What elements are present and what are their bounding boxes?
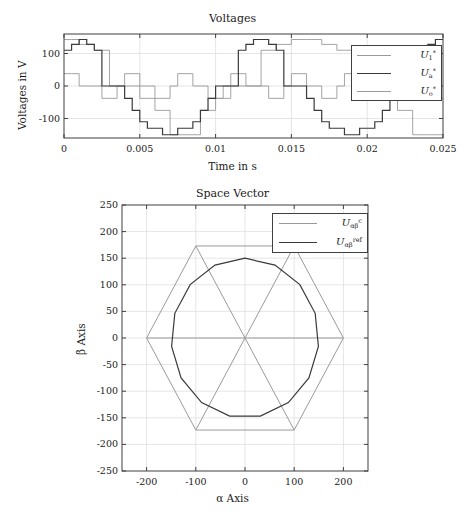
legend-label-ua-ref: Ua* bbox=[391, 67, 441, 80]
legend-swatch-u-alphabeta-ref bbox=[279, 242, 317, 243]
figure-root: Voltages Voltages in V Time in s 00.0050… bbox=[0, 0, 465, 520]
voltages-ytick: -100 bbox=[18, 113, 60, 124]
voltages-xtick: 0.015 bbox=[266, 143, 316, 154]
space-vector-xtick: 100 bbox=[269, 476, 319, 487]
space-vector-ytick: -150 bbox=[78, 412, 118, 423]
space-vector-xtick: 0 bbox=[220, 476, 270, 487]
legend-item-ua-ref[interactable]: Ua* bbox=[352, 64, 441, 82]
legend-item-uo-ref[interactable]: Uo* bbox=[352, 82, 441, 100]
voltages-ytick: 100 bbox=[18, 48, 60, 59]
space-vector-plot-area bbox=[0, 180, 465, 520]
legend-swatch-u-alphabeta-c bbox=[279, 223, 317, 224]
legend-item-u-alphabeta-ref[interactable]: Uαβref bbox=[273, 233, 367, 252]
voltages-xtick: 0.005 bbox=[115, 143, 165, 154]
space-vector-ytick: -250 bbox=[78, 465, 118, 476]
voltages-ytick: 0 bbox=[18, 80, 60, 91]
voltages-chart: Voltages Voltages in V Time in s 00.0050… bbox=[0, 0, 465, 180]
space-vector-ytick: 100 bbox=[78, 279, 118, 290]
space-vector-ytick: -200 bbox=[78, 438, 118, 449]
space-vector-xtick: -100 bbox=[171, 476, 221, 487]
space-vector-ytick: 50 bbox=[78, 305, 118, 316]
legend-swatch-u1-ref bbox=[357, 55, 391, 56]
space-vector-ytick: -50 bbox=[78, 359, 118, 370]
legend-label-u-alphabeta-ref: Uαβref bbox=[317, 236, 367, 249]
space-vector-xtick: 200 bbox=[318, 476, 368, 487]
space-vector-ytick: 0 bbox=[78, 332, 118, 343]
voltages-legend[interactable]: U1*Ua*Uo* bbox=[351, 45, 442, 101]
legend-item-u1-ref[interactable]: U1* bbox=[352, 46, 441, 64]
space-vector-ytick: -100 bbox=[78, 385, 118, 396]
legend-label-u-alphabeta-c: Uαβc bbox=[317, 217, 367, 230]
space-vector-ytick: 200 bbox=[78, 226, 118, 237]
legend-swatch-ua-ref bbox=[357, 73, 391, 74]
legend-item-u-alphabeta-c[interactable]: Uαβc bbox=[273, 214, 367, 233]
space-vector-ytick: 150 bbox=[78, 252, 118, 263]
voltages-xtick: 0 bbox=[39, 143, 89, 154]
voltages-xtick: 0.02 bbox=[342, 143, 392, 154]
voltages-xtick: 0.01 bbox=[191, 143, 241, 154]
legend-label-uo-ref: Uo* bbox=[391, 85, 441, 98]
space-vector-chart: Space Vector β Axis α Axis -200-10001002… bbox=[0, 180, 465, 520]
space-vector-legend[interactable]: UαβcUαβref bbox=[272, 213, 368, 253]
space-vector-xtick: -200 bbox=[122, 476, 172, 487]
voltages-xtick: 0.025 bbox=[418, 143, 465, 154]
legend-swatch-uo-ref bbox=[357, 91, 391, 92]
legend-label-u1-ref: U1* bbox=[391, 49, 441, 62]
space-vector-ytick: 250 bbox=[78, 199, 118, 210]
